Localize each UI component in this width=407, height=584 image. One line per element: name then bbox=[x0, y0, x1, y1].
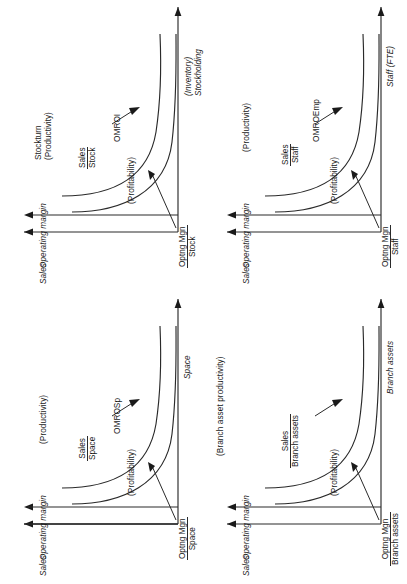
productivity-name-stock: Stockturn bbox=[34, 112, 44, 160]
rotated-page-wrapper: Sales Operating margin Space Sales Space… bbox=[0, 0, 407, 584]
profitability-ratio-numerator: Optng Mgn bbox=[381, 512, 391, 566]
productivity-pointer-arrowhead bbox=[332, 399, 343, 407]
productivity-ratio-space: Sales Space bbox=[78, 436, 97, 461]
profitability-ratio-denominator: Stock bbox=[188, 225, 197, 268]
chart-panel-stock: Sales Operating margin (Inventory) Stock… bbox=[0, 0, 203, 292]
productivity-ratio-denominator: Space bbox=[88, 436, 97, 461]
x-axis-arrowhead bbox=[378, 299, 385, 308]
profitability-ratio-space: Optng Mgn Space bbox=[178, 517, 197, 560]
profitability-ratio-denominator: Branch assets bbox=[391, 512, 400, 566]
x-axis-label-stockholding: (Inventory) Stockholding bbox=[184, 49, 203, 96]
x-axis-arrowhead bbox=[175, 299, 182, 308]
productivity-pointer-arrowhead bbox=[129, 107, 140, 115]
y-axis-arrowhead-inner bbox=[227, 504, 236, 511]
productivity-caption-stock: Stockturn (Productivity) bbox=[34, 112, 53, 160]
panel-stock-drawing bbox=[0, 0, 203, 292]
y-axis-label-operating-margin: Operating margin bbox=[40, 203, 49, 268]
panel-staff-drawing bbox=[203, 0, 406, 292]
productivity-pointer-arrowhead bbox=[332, 107, 343, 115]
productivity-ratio-numerator: Sales bbox=[281, 414, 291, 468]
profitability-label-branch-assets: (Profitability) bbox=[331, 449, 340, 496]
profitability-ratio-denominator: Space bbox=[188, 517, 197, 560]
productivity-label-space: (Productivity) bbox=[40, 395, 49, 444]
y-axis-arrowhead-outer bbox=[227, 229, 236, 236]
productivity-label-branch-assets: (Branch asset productivity) bbox=[217, 356, 226, 456]
profitability-ratio-staff: Optng Mgn Staff bbox=[381, 225, 400, 268]
productivity-ratio-numerator: Sales bbox=[78, 436, 88, 461]
productivity-ratio-numerator: Sales bbox=[281, 144, 291, 166]
profitability-label-staff: (Profitability) bbox=[331, 157, 340, 204]
profitability-ratio-denominator: Staff bbox=[391, 225, 400, 268]
profitability-name-staff: OMROEmp bbox=[313, 99, 322, 142]
productivity-ratio-denominator: Stock bbox=[88, 147, 97, 169]
profitability-ratio-numerator: Optng Mgn bbox=[381, 225, 391, 268]
productivity-curve bbox=[62, 34, 161, 196]
productivity-ratio-denominator: Branch assets bbox=[291, 414, 300, 468]
productivity-ratio-staff: Sales Staff bbox=[281, 144, 300, 166]
x-axis-arrowhead bbox=[175, 7, 182, 16]
profitability-label-stock: (Profitability) bbox=[128, 157, 137, 204]
y-axis-arrowhead-inner bbox=[227, 212, 236, 219]
profitability-ratio-stock: Optng Mgn Stock bbox=[178, 225, 197, 268]
profitability-ratio-numerator: Optng Mgn bbox=[178, 225, 188, 268]
profitability-ratio-branch-assets: Optng Mgn Branch assets bbox=[381, 512, 400, 566]
chart-panel-space: Sales Operating margin Space Sales Space… bbox=[0, 292, 203, 584]
productivity-pointer-arrowhead bbox=[129, 399, 140, 407]
profitability-name-stock: OMROI bbox=[114, 114, 123, 142]
x-axis-label-space: Space bbox=[184, 355, 193, 379]
chart-panel-staff: Sales Operating margin Staff (FTE) Sales… bbox=[203, 0, 406, 292]
y-axis-arrowhead-outer bbox=[24, 229, 33, 236]
x-axis-label-sub: (Inventory) bbox=[184, 49, 194, 96]
x-axis-label-main: Stockholding bbox=[194, 49, 204, 96]
x-axis-label-branch-assets: Branch assets bbox=[387, 341, 396, 394]
productivity-ratio-numerator: Sales bbox=[78, 147, 88, 169]
productivity-ratio-branch-assets: Sales Branch assets bbox=[281, 414, 300, 468]
productivity-curve bbox=[265, 326, 364, 488]
x-axis-label-staff: Staff (FTE) bbox=[387, 46, 396, 87]
panel-branch-assets-drawing bbox=[203, 292, 406, 584]
profitability-ratio-numerator: Optng Mgn bbox=[178, 517, 188, 560]
y-axis-arrowhead-inner bbox=[24, 212, 33, 219]
profitability-label-space: (Profitability) bbox=[128, 449, 137, 496]
productivity-ratio-stock: Sales Stock bbox=[78, 147, 97, 169]
diagram-page: Sales Operating margin Space Sales Space… bbox=[0, 0, 407, 584]
y-axis-label-operating-margin: Operating margin bbox=[243, 203, 252, 268]
productivity-label-staff: (Productivity) bbox=[243, 103, 252, 152]
y-axis-label-operating-margin: Operating margin bbox=[40, 495, 49, 560]
productivity-ratio-denominator: Staff bbox=[291, 144, 300, 166]
y-axis-label-operating-margin: Operating margin bbox=[243, 495, 252, 560]
panel-space-drawing bbox=[0, 292, 203, 584]
productivity-label-stock: (Productivity) bbox=[44, 112, 54, 160]
productivity-curve bbox=[62, 326, 161, 488]
x-axis-arrowhead bbox=[378, 7, 385, 16]
chart-panel-branch-assets: Sales Operating margin Branch assets Sal… bbox=[203, 292, 406, 584]
profitability-name-space: OMROSp bbox=[114, 398, 123, 434]
y-axis-arrowhead-outer bbox=[227, 521, 236, 528]
